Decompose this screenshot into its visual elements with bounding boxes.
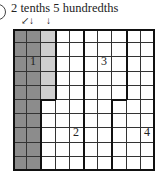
grid-cell bbox=[41, 100, 55, 114]
grid-cell bbox=[70, 43, 84, 57]
region-boundary-line bbox=[13, 29, 15, 171]
grid-cell bbox=[13, 43, 27, 57]
grid-cell bbox=[98, 128, 112, 142]
region-boundary-line bbox=[126, 29, 128, 100]
grid-cell bbox=[84, 57, 98, 71]
grid-cell bbox=[41, 86, 55, 100]
grid-cell bbox=[127, 100, 141, 114]
grid-cell bbox=[13, 100, 27, 114]
grid-cell bbox=[112, 43, 126, 57]
grid-cell bbox=[13, 114, 27, 128]
grid-cell bbox=[41, 29, 55, 43]
grid-cell bbox=[112, 57, 126, 71]
grid-cell bbox=[84, 143, 98, 157]
grid-cell bbox=[84, 29, 98, 43]
grid-cell bbox=[56, 72, 70, 86]
grid-cell bbox=[84, 72, 98, 86]
grid-cell bbox=[127, 29, 141, 43]
region-label-4: 4 bbox=[144, 125, 150, 140]
grid-cell bbox=[27, 72, 41, 86]
grid-cell bbox=[70, 72, 84, 86]
grid-cell bbox=[112, 128, 126, 142]
region-boundary-line bbox=[40, 99, 42, 170]
grid-cell bbox=[41, 114, 55, 128]
region-label-3: 3 bbox=[101, 54, 107, 69]
grid-cell bbox=[127, 57, 141, 71]
grid-cell bbox=[127, 43, 141, 57]
grid-cell bbox=[41, 43, 55, 57]
region-boundary-line bbox=[111, 99, 113, 170]
grid-cell bbox=[98, 100, 112, 114]
grid-cell bbox=[112, 72, 126, 86]
grid-cell bbox=[70, 86, 84, 100]
grid-cell bbox=[112, 114, 126, 128]
grid-cell bbox=[27, 29, 41, 43]
grid-cell bbox=[56, 114, 70, 128]
region-boundary-line bbox=[83, 29, 85, 171]
grid-cell bbox=[112, 143, 126, 157]
grid-cell bbox=[41, 72, 55, 86]
grid-cell bbox=[70, 57, 84, 71]
grid-cell bbox=[127, 143, 141, 157]
grid-cell bbox=[127, 86, 141, 100]
grid-cell bbox=[13, 72, 27, 86]
grid-cell bbox=[70, 29, 84, 43]
grid-cell bbox=[70, 100, 84, 114]
grid-cell bbox=[56, 43, 70, 57]
grid-cell bbox=[56, 57, 70, 71]
grid-cell bbox=[41, 57, 55, 71]
arrow-hundredths-icon: ↓ bbox=[46, 16, 51, 26]
grid-cell bbox=[13, 29, 27, 43]
grid-cell bbox=[84, 43, 98, 57]
grid-cell bbox=[112, 86, 126, 100]
grid-cell bbox=[127, 128, 141, 142]
grid-cell bbox=[56, 100, 70, 114]
grid-cell bbox=[98, 29, 112, 43]
grid-cell bbox=[112, 29, 126, 43]
region-boundary-line bbox=[153, 29, 155, 171]
grid-cell bbox=[56, 86, 70, 100]
grid-cell bbox=[84, 86, 98, 100]
grid-cell bbox=[41, 143, 55, 157]
grid-cell bbox=[13, 128, 27, 142]
grid-cell bbox=[84, 114, 98, 128]
grid-cell bbox=[98, 114, 112, 128]
region-boundary-line bbox=[111, 99, 126, 101]
grid-cell bbox=[27, 86, 41, 100]
grid-cell bbox=[84, 128, 98, 142]
grid-cell bbox=[27, 143, 41, 157]
circled-marker bbox=[0, 4, 6, 20]
grid-cell bbox=[13, 143, 27, 157]
grid-cell bbox=[127, 72, 141, 86]
region-boundary-line bbox=[55, 29, 57, 100]
grid-cell bbox=[13, 57, 27, 71]
region-label-2: 2 bbox=[73, 125, 79, 140]
grid-cell bbox=[56, 143, 70, 157]
grid-cell bbox=[70, 143, 84, 157]
hundred-grid: 1234 bbox=[13, 29, 155, 171]
grid-cell bbox=[27, 114, 41, 128]
grid-cell bbox=[98, 86, 112, 100]
grid-cell bbox=[56, 29, 70, 43]
arrow-tenths-2-icon: ↓ bbox=[29, 16, 34, 26]
region-boundary-line bbox=[40, 99, 55, 101]
grid-cell bbox=[127, 114, 141, 128]
grid-cell bbox=[27, 128, 41, 142]
region-label-1: 1 bbox=[30, 54, 36, 69]
grid-cell bbox=[41, 128, 55, 142]
grid-cell bbox=[98, 143, 112, 157]
grid-cell bbox=[27, 100, 41, 114]
diagram-title: 2 tenths 5 hundredths bbox=[11, 1, 118, 16]
grid-cell bbox=[56, 128, 70, 142]
grid-cell bbox=[98, 72, 112, 86]
grid-cell bbox=[84, 100, 98, 114]
grid-cell bbox=[13, 86, 27, 100]
grid-cell bbox=[112, 100, 126, 114]
